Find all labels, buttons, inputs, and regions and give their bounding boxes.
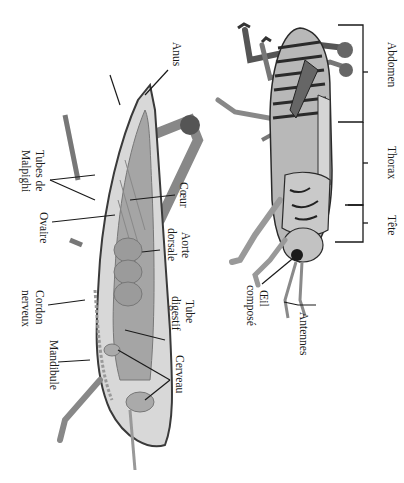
label-oeil: Œil <box>257 290 270 307</box>
label-malpighi: Malpighi <box>19 150 32 192</box>
label-anus: Anus <box>170 42 183 66</box>
label-mandibule: Mandibule <box>47 340 60 390</box>
label-abdomen: Abdomen <box>385 42 398 87</box>
external-grasshopper <box>218 24 353 318</box>
label-dorsale: dorsale <box>165 228 178 261</box>
internal-grasshopper <box>60 85 200 470</box>
label-thorax: Thorax <box>385 146 398 179</box>
label-aorte: Aorte <box>179 232 192 258</box>
label-nerveux: nerveux <box>19 290 32 327</box>
label-cordon: Cordon <box>33 290 46 325</box>
segment-brackets <box>335 25 368 242</box>
label-antennes: Antennes <box>297 312 310 355</box>
label-tete: Tête <box>385 215 398 235</box>
label-digestif: digestif <box>169 296 182 331</box>
grasshopper-illustration <box>0 0 404 483</box>
label-tube: Tube <box>183 300 196 323</box>
label-cerveau: Cerveau <box>173 355 186 393</box>
label-ovaire: Ovaire <box>37 212 50 243</box>
label-coeur: Cœur <box>177 182 190 208</box>
label-tubes-de: Tubes de <box>33 150 46 191</box>
label-compose: composé <box>244 285 257 326</box>
